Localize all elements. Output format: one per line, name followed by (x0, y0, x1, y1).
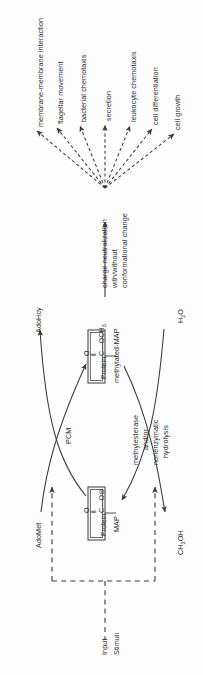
effect-line-1: charge neutralization (100, 219, 110, 288)
esterase-line-4: hydrolysis (161, 425, 171, 458)
feedback-line-1: Input (100, 639, 110, 656)
effect-line-2: with/without (110, 249, 120, 288)
methylated-map-label: methylated-MAP (112, 328, 122, 383)
adomet-label: AdoMet (34, 523, 44, 548)
esterase-line-2: and/or (141, 429, 151, 450)
outcome-label-2: flagellar movement (56, 61, 66, 124)
methanol-label: CH3OH (176, 530, 187, 555)
figure-canvas: membrane-membrane interaction flagellar … (0, 0, 203, 675)
methyl-ester-group: C—OCH3 (97, 324, 108, 356)
outcome-label-4: secretion (104, 91, 114, 121)
unused2 (44, 330, 84, 415)
protein-label-methylated: Protein (100, 357, 107, 379)
esterase-line-3: nonenzymatic (151, 419, 161, 465)
outcome-label-6: cell differentiation (151, 67, 161, 125)
adohcy-out-arrow (40, 330, 86, 496)
outcome-label-3: bacterial chemotaxis (79, 54, 89, 122)
carboxylate-group: C—O⊖ (97, 489, 107, 513)
pcm-label: PCM (64, 428, 74, 444)
outcome-label-5: leukocyte chemotaxis (129, 51, 139, 122)
outcome-arrow-3 (80, 126, 105, 188)
outcome-arrow-6 (105, 129, 152, 188)
adohcy-label: AdoHcy (34, 307, 44, 333)
effect-line-3: conformational change (120, 213, 130, 288)
outcome-arrow-2 (57, 128, 105, 188)
outcome-arrows (37, 125, 174, 188)
outcome-label-1: membrane-membrane interaction (36, 18, 46, 127)
map-label: MAP (112, 516, 122, 532)
water-label: H2O (176, 309, 187, 323)
outcome-arrow-1 (37, 131, 105, 188)
feedback-line-2: Stimuli (112, 633, 122, 655)
outcome-label-7: cell growth (173, 95, 183, 130)
protein-label-unmethylated: Protein (100, 514, 107, 536)
outcome-arrow-5 (105, 126, 130, 188)
esterase-line-1: methylesterase (131, 415, 141, 465)
